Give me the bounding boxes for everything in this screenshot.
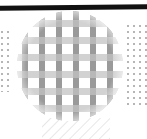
mesh-wafer-figure xyxy=(0,0,147,139)
right-dot-field xyxy=(127,24,147,106)
bottom-hatch xyxy=(42,118,110,139)
figure-canvas: Woven mesh disc schematic xyxy=(0,0,147,139)
left-dot-field xyxy=(1,30,13,92)
